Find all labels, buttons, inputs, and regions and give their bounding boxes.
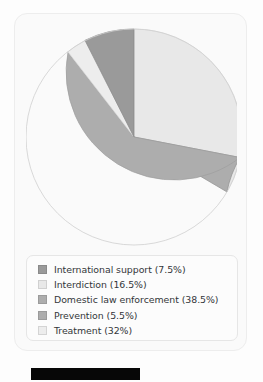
- legend-label-treatment: Treatment (32%): [54, 325, 132, 336]
- legend-item-international-support[interactable]: International support (7.5%): [38, 262, 237, 277]
- bottom-black-bar: [31, 368, 140, 380]
- legend-item-treatment[interactable]: Treatment (32%): [38, 323, 237, 338]
- pie-slices: [66, 29, 237, 192]
- legend-swatch-treatment: [38, 326, 47, 335]
- legend-item-domestic-law-enforcement[interactable]: Domestic law enforcement (38.5%): [38, 292, 237, 307]
- legend-item-interdiction[interactable]: Interdiction (16.5%): [38, 277, 237, 292]
- legend-label-domestic-law-enforcement: Domestic law enforcement (38.5%): [54, 294, 218, 305]
- legend-label-interdiction: Interdiction (16.5%): [54, 279, 147, 290]
- pie-chart: [26, 26, 237, 249]
- legend-item-prevention[interactable]: Prevention (5.5%): [38, 308, 237, 323]
- chart-legend: International support (7.5%) Interdictio…: [26, 255, 238, 341]
- legend-label-international-support: International support (7.5%): [54, 264, 186, 275]
- legend-swatch-domestic-law-enforcement: [38, 295, 47, 304]
- legend-label-prevention: Prevention (5.5%): [54, 310, 137, 321]
- legend-swatch-interdiction: [38, 280, 47, 289]
- legend-swatch-prevention: [38, 311, 47, 320]
- pie-chart-area: [15, 14, 248, 249]
- chart-card: International support (7.5%) Interdictio…: [14, 13, 247, 351]
- legend-swatch-international-support: [38, 265, 47, 274]
